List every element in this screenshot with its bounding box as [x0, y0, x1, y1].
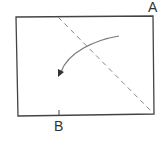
- point-b-label: B: [54, 119, 63, 133]
- rectangle-sheet: [16, 16, 154, 116]
- corner-a-label: A: [148, 0, 157, 14]
- fold-diagram: [0, 0, 168, 144]
